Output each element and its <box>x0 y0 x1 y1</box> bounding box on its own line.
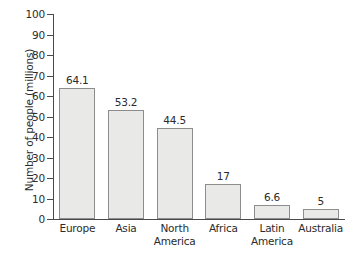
y-tick-label: 60 <box>1 91 45 102</box>
y-tick-label: 10 <box>1 193 45 204</box>
bar-group: 53.2 <box>108 14 144 219</box>
y-tick-label: 30 <box>1 152 45 163</box>
y-tick-label: 20 <box>1 173 45 184</box>
bar-group: 6.6 <box>254 14 290 219</box>
y-tick-label: 80 <box>1 50 45 61</box>
bar <box>205 184 241 219</box>
bar <box>59 88 95 219</box>
x-axis-label: Europe <box>53 222 102 235</box>
bar <box>303 209 339 219</box>
x-axis-label: Africa <box>199 222 248 235</box>
x-axis-label-line: Africa <box>199 222 248 235</box>
x-axis-label-line: America <box>150 235 199 248</box>
y-tick-label: 50 <box>1 111 45 122</box>
bar-group: 5 <box>303 14 339 219</box>
bar-value-label: 64.1 <box>66 75 89 86</box>
x-axis-label-line: America <box>248 235 297 248</box>
x-axis-label: NorthAmerica <box>150 222 199 247</box>
x-axis-label-line: Australia <box>296 222 345 235</box>
bar-value-label: 44.5 <box>163 115 186 126</box>
bar-group: 44.5 <box>157 14 193 219</box>
bar-value-label: 6.6 <box>264 192 280 203</box>
x-axis-label-line: Latin <box>248 222 297 235</box>
x-axis-label: LatinAmerica <box>248 222 297 247</box>
bar-group: 64.1 <box>59 14 95 219</box>
x-axis-label: Australia <box>296 222 345 235</box>
plot-area: 64.153.244.5176.65 <box>53 14 345 219</box>
y-tick-label: 70 <box>1 70 45 81</box>
y-tick-mark <box>47 219 53 220</box>
bar-chart: Number of people (millions) 010203040506… <box>0 0 352 266</box>
bar-value-label: 17 <box>217 171 230 182</box>
bar <box>254 205 290 219</box>
bar-value-label: 53.2 <box>115 97 138 108</box>
x-axis-label-line: Europe <box>53 222 102 235</box>
y-tick-label: 40 <box>1 132 45 143</box>
x-axis-label-line: North <box>150 222 199 235</box>
y-tick-label: 90 <box>1 29 45 40</box>
bar-value-label: 5 <box>317 196 323 207</box>
y-tick-label: 100 <box>1 9 45 20</box>
x-axis-label: Asia <box>102 222 151 235</box>
bar <box>157 128 193 219</box>
bar-group: 17 <box>205 14 241 219</box>
x-axis-label-line: Asia <box>102 222 151 235</box>
y-tick-label: 0 <box>1 214 45 225</box>
bar <box>108 110 144 219</box>
